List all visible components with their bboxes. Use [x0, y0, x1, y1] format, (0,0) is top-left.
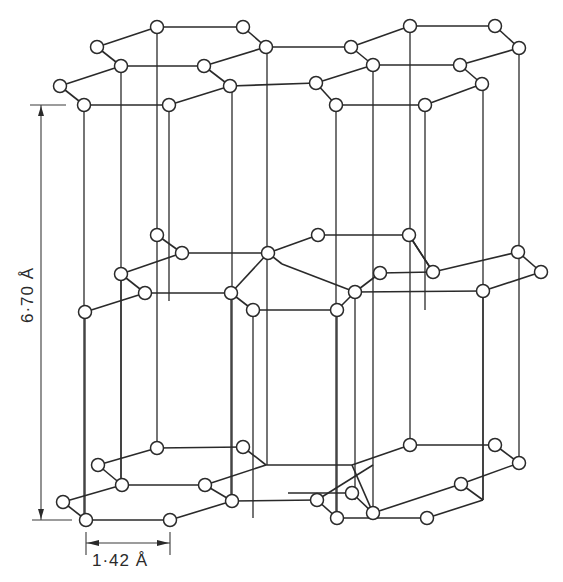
carbon-atom	[116, 479, 129, 492]
bond	[461, 463, 519, 484]
covalent-bonds	[60, 26, 541, 520]
bond-length-label: 1·42 Å	[92, 551, 148, 571]
carbon-atom	[331, 304, 344, 317]
carbon-atom	[78, 99, 91, 112]
carbon-atom	[476, 78, 489, 91]
arrow-right-icon	[157, 540, 169, 546]
dimension-lines	[30, 105, 170, 555]
carbon-atom	[489, 20, 502, 33]
carbon-atom	[115, 60, 128, 73]
arrow-left-icon	[87, 540, 99, 546]
carbon-atom	[237, 21, 250, 34]
carbon-atom	[427, 266, 440, 279]
carbon-atom	[225, 287, 238, 300]
bond	[232, 500, 317, 501]
bond	[63, 485, 122, 502]
carbon-atom	[57, 496, 70, 509]
carbon-atom	[92, 459, 105, 472]
arrow-down-icon	[38, 509, 44, 519]
carbon-atom	[199, 479, 212, 492]
bond	[425, 84, 482, 105]
carbon-atom	[349, 286, 362, 299]
carbon-atom	[489, 439, 502, 452]
bond	[433, 252, 518, 272]
carbon-atom	[115, 268, 128, 281]
carbon-atom	[312, 229, 325, 242]
carbon-atom	[262, 247, 275, 260]
bond	[282, 264, 355, 292]
arrow-up-icon	[38, 106, 44, 116]
carbon-atom	[345, 41, 358, 54]
carbon-atom	[79, 306, 92, 319]
bond	[483, 272, 541, 291]
carbon-atoms	[54, 20, 548, 527]
carbon-atom	[237, 441, 250, 454]
carbon-atom	[513, 42, 526, 55]
bond	[316, 65, 373, 83]
carbon-atom	[311, 494, 324, 507]
bond	[352, 445, 410, 465]
carbon-atom	[163, 99, 176, 112]
carbon-atom	[260, 41, 273, 54]
bond	[460, 48, 519, 65]
carbon-atom	[512, 246, 525, 259]
carbon-atom	[404, 20, 417, 33]
bond	[169, 86, 230, 105]
carbon-atom	[331, 512, 344, 525]
bond	[157, 447, 243, 448]
carbon-atom	[455, 478, 468, 491]
bond	[121, 253, 182, 274]
carbon-atom	[477, 285, 490, 298]
carbon-atom	[310, 77, 323, 90]
carbon-atom	[226, 495, 239, 508]
bond	[204, 47, 266, 66]
carbon-atom	[346, 487, 359, 500]
bond	[427, 500, 483, 518]
carbon-atom	[198, 60, 211, 73]
carbon-atom	[330, 99, 343, 112]
bond	[85, 293, 145, 312]
bond	[373, 484, 461, 513]
carbon-atom	[404, 439, 417, 452]
carbon-atom	[91, 41, 104, 54]
interlayer-lines	[84, 26, 519, 520]
carbon-atom	[367, 59, 380, 72]
bond	[268, 235, 318, 253]
bond	[98, 448, 157, 465]
carbon-atom	[54, 80, 67, 93]
bond	[231, 253, 268, 293]
bond	[351, 26, 410, 47]
carbon-atom	[513, 457, 526, 470]
bond	[170, 501, 232, 520]
carbon-atom	[80, 514, 93, 527]
carbon-atom	[535, 266, 548, 279]
carbon-atom	[151, 442, 164, 455]
carbon-atom	[151, 21, 164, 34]
graphite-lattice-diagram	[0, 0, 563, 582]
carbon-atom	[151, 229, 164, 242]
carbon-atom	[374, 267, 387, 280]
carbon-atom	[403, 229, 416, 242]
carbon-atom	[164, 514, 177, 527]
bond	[205, 465, 266, 485]
bond	[60, 66, 121, 86]
carbon-atom	[419, 99, 432, 112]
carbon-atom	[367, 507, 380, 520]
carbon-atom	[247, 304, 260, 317]
bond	[230, 83, 316, 86]
carbon-atom	[421, 512, 434, 525]
bond	[380, 272, 433, 273]
carbon-atom	[139, 287, 152, 300]
interlayer-spacing-label: 6·70 Å	[18, 267, 38, 323]
carbon-atom	[454, 59, 467, 72]
carbon-atom	[224, 80, 237, 93]
bond	[97, 27, 157, 47]
bond	[355, 291, 483, 292]
carbon-atom	[176, 247, 189, 260]
